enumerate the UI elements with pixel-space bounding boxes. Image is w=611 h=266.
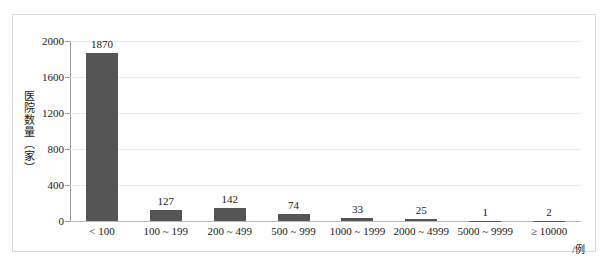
y-axis-tick-label: 1200 bbox=[42, 108, 64, 119]
bar-value-label: 1870 bbox=[91, 39, 113, 50]
bar-group: 33 bbox=[326, 41, 390, 221]
chart-figure: 医院数量（家） 0400800120016002000 187012714274… bbox=[12, 14, 596, 252]
x-axis-category-label: 200 ~ 499 bbox=[198, 225, 262, 238]
y-axis-tick-mark bbox=[65, 41, 70, 42]
x-axis-baseline bbox=[70, 221, 581, 222]
x-axis-category-label: ≥ 10000 bbox=[517, 225, 581, 238]
bar-value-label: 74 bbox=[288, 200, 299, 211]
bar[interactable] bbox=[214, 208, 246, 221]
x-axis-category-label: 1000 ~ 1999 bbox=[326, 225, 390, 238]
bar[interactable] bbox=[341, 218, 373, 221]
x-axis-category-label: 500 ~ 999 bbox=[262, 225, 326, 238]
bar-group: 2 bbox=[517, 41, 581, 221]
x-axis-category-labels: < 100100 ~ 199200 ~ 499500 ~ 9991000 ~ 1… bbox=[70, 225, 581, 243]
x-axis-category-label: < 100 bbox=[70, 225, 134, 238]
y-axis-tick-label: 800 bbox=[48, 144, 65, 155]
bar[interactable] bbox=[150, 210, 182, 221]
bar-value-label: 2 bbox=[546, 207, 552, 218]
bar-group: 127 bbox=[134, 41, 198, 221]
bar-value-label: 142 bbox=[221, 194, 238, 205]
x-axis-unit-label: /例 bbox=[572, 241, 585, 256]
x-axis-category-label: 5000 ~ 9999 bbox=[453, 225, 517, 238]
bar-group: 142 bbox=[198, 41, 262, 221]
y-axis-tick-mark bbox=[65, 185, 70, 186]
bar[interactable] bbox=[405, 219, 437, 221]
bar-group: 74 bbox=[262, 41, 326, 221]
y-axis-tick-mark bbox=[65, 221, 70, 222]
bar[interactable] bbox=[278, 214, 310, 221]
y-axis-tick-label: 400 bbox=[48, 180, 65, 191]
y-axis-tick-mark bbox=[65, 77, 70, 78]
y-axis-tick-label: 0 bbox=[59, 216, 65, 227]
y-axis-tick-label: 2000 bbox=[42, 36, 64, 47]
plot-area: 187012714274332512 bbox=[70, 41, 581, 221]
bar-value-label: 25 bbox=[416, 205, 427, 216]
x-axis-category-label: 100 ~ 199 bbox=[134, 225, 198, 238]
x-axis-category-label: 2000 ~ 4999 bbox=[389, 225, 453, 238]
y-axis-tick-labels: 0400800120016002000 bbox=[13, 15, 64, 253]
bar-value-label: 33 bbox=[352, 204, 363, 215]
bar-group: 25 bbox=[389, 41, 453, 221]
bar-group: 1870 bbox=[70, 41, 134, 221]
bar-value-label: 1 bbox=[482, 207, 488, 218]
y-axis-tick-label: 1600 bbox=[42, 72, 64, 83]
bar-value-label: 127 bbox=[158, 196, 175, 207]
y-axis-tick-mark bbox=[65, 113, 70, 114]
bar-group: 1 bbox=[453, 41, 517, 221]
y-axis-tick-mark bbox=[65, 149, 70, 150]
bar[interactable] bbox=[86, 53, 118, 221]
